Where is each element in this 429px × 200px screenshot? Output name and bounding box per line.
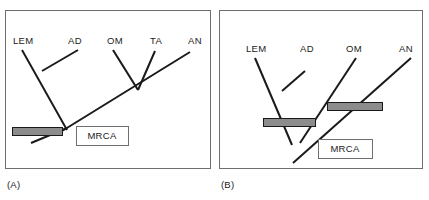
figure-canvas: LEMADOMTAANMRCALEMADOMANMRCA [0, 0, 429, 200]
branch-tarsier-branch [138, 51, 155, 90]
branch-adapid-branch [282, 71, 305, 91]
branch-omomyid-branch [300, 58, 356, 143]
branch-lemur-branch [22, 50, 67, 130]
panel-b: LEMADOMANMRCA [220, 11, 423, 169]
branch-omomyid-branch [113, 50, 138, 90]
branch-backbone-to-anthropoid-node [62, 52, 190, 131]
panel-caption-b: (B) [221, 179, 234, 190]
taxon-label-lem: LEM [246, 43, 266, 54]
taxon-label-an: AN [188, 35, 202, 46]
panel-caption-a: (A) [7, 179, 20, 190]
taxon-label-ad: AD [68, 35, 82, 46]
taxon-label-an: AN [399, 43, 413, 54]
taxon-label-om: OM [346, 43, 362, 54]
mrca-bar [13, 128, 63, 136]
taxon-label-ta: TA [150, 35, 162, 46]
mrca-box-label: MRCA [330, 143, 360, 154]
taxon-label-lem: LEM [13, 35, 33, 46]
taxon-label-om: OM [107, 35, 123, 46]
taxon-label-ad: AD [300, 43, 314, 54]
mrca-box-label: MRCA [87, 130, 117, 141]
lemur-clade-bar [264, 119, 316, 127]
anthropoid-clade-bar [328, 103, 383, 111]
branch-adapid-branch [42, 50, 78, 71]
branch-lemur-branch [255, 58, 292, 145]
panel-a: LEMADOMTAANMRCA [6, 11, 211, 169]
phylogenetic-tree-figure: LEMADOMTAANMRCALEMADOMANMRCA (A) (B) [0, 0, 429, 200]
